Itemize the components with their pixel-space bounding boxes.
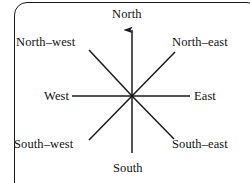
- compass-diagram: North North–east East South–east South S…: [0, 0, 250, 183]
- label-north-west: North–west: [16, 36, 75, 49]
- label-north: North: [112, 8, 142, 21]
- ray-north-west: [89, 50, 132, 96]
- label-east: East: [194, 90, 216, 103]
- ray-south-east: [132, 96, 174, 139]
- label-south-east: South–east: [172, 138, 228, 151]
- ray-north-east: [132, 52, 175, 96]
- label-west: West: [44, 90, 69, 103]
- ray-south-west: [89, 96, 132, 140]
- label-north-east: North–east: [172, 36, 228, 49]
- label-south-west: South–west: [14, 138, 73, 151]
- label-south: South: [113, 162, 143, 175]
